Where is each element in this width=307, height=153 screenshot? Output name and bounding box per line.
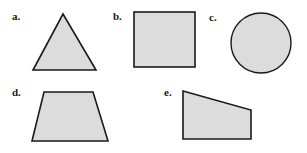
quadrilateral-shape-e xyxy=(183,91,251,139)
trapezoid-shape-d xyxy=(32,92,108,141)
triangle-shape-a xyxy=(33,14,96,70)
square-shape-b xyxy=(134,12,195,67)
shape-label-a: a. xyxy=(12,11,20,22)
circle-shape-c xyxy=(231,13,291,73)
shape-label-c: c. xyxy=(209,12,217,23)
shapes-drawing-area xyxy=(0,0,307,153)
geometric-shapes-figure: a. b. c. d. e. xyxy=(0,0,307,153)
shape-label-e: e. xyxy=(164,87,172,98)
shape-label-d: d. xyxy=(12,87,21,98)
shape-label-b: b. xyxy=(113,11,122,22)
